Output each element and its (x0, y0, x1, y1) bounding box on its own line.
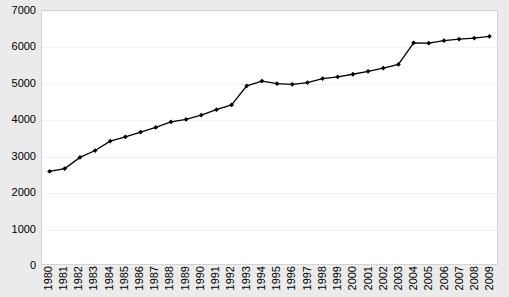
x-tick-label: 2009 (484, 266, 495, 290)
data-point-marker (426, 41, 431, 46)
x-tick-label: 1992 (225, 266, 236, 290)
data-point-marker (305, 80, 310, 85)
y-tick-label: 3000 (0, 151, 36, 162)
x-tick-label: 1991 (210, 266, 221, 290)
x-tick-label: 1999 (332, 266, 343, 290)
x-tick-label: 1982 (73, 266, 84, 290)
y-tick-label: 4000 (0, 114, 36, 125)
y-axis: 01000200030004000500060007000 (0, 0, 36, 297)
y-tick-label: 7000 (0, 5, 36, 16)
x-tick-label: 1988 (164, 266, 175, 290)
x-tick-label: 1990 (195, 266, 206, 290)
x-tick-label: 2007 (454, 266, 465, 290)
data-point-marker (214, 107, 219, 112)
x-tick-label: 1998 (317, 266, 328, 290)
x-tick-label: 1989 (180, 266, 191, 290)
data-point-marker (381, 66, 386, 71)
series-line (50, 36, 490, 171)
x-tick-label: 1986 (134, 266, 145, 290)
x-tick-label: 1995 (271, 266, 282, 290)
data-point-marker (472, 36, 477, 41)
x-axis: 1980198119821983198419851986198719881989… (41, 266, 498, 297)
data-point-marker (275, 81, 280, 86)
data-point-marker (335, 74, 340, 79)
x-tick-label: 2000 (347, 266, 358, 290)
x-tick-label: 2001 (363, 266, 374, 290)
x-tick-label: 2006 (439, 266, 450, 290)
y-tick-label: 6000 (0, 41, 36, 52)
x-tick-label: 1981 (58, 266, 69, 290)
data-series-line (42, 11, 497, 264)
x-tick-label: 2004 (408, 266, 419, 290)
x-tick-label: 1993 (241, 266, 252, 290)
data-point-marker (457, 37, 462, 42)
data-point-marker (290, 82, 295, 87)
x-tick-label: 1984 (104, 266, 115, 290)
y-tick-label: 5000 (0, 78, 36, 89)
data-point-marker (366, 69, 371, 74)
x-tick-label: 2008 (469, 266, 480, 290)
x-tick-label: 1983 (88, 266, 99, 290)
y-tick-label: 0 (0, 260, 36, 271)
x-tick-label: 1980 (43, 266, 54, 290)
y-tick-label: 2000 (0, 187, 36, 198)
y-tick-label: 1000 (0, 224, 36, 235)
line-chart: 01000200030004000500060007000 1980198119… (0, 0, 509, 297)
x-tick-label: 2002 (378, 266, 389, 290)
data-point-marker (184, 117, 189, 122)
data-point-marker (138, 130, 143, 135)
data-point-marker (123, 134, 128, 139)
data-point-marker (153, 125, 158, 130)
x-tick-label: 1997 (302, 266, 313, 290)
data-point-marker (169, 120, 174, 125)
data-point-marker (320, 76, 325, 81)
x-tick-label: 1987 (149, 266, 160, 290)
x-tick-label: 2003 (393, 266, 404, 290)
x-tick-label: 1994 (256, 266, 267, 290)
plot-area (41, 10, 498, 265)
data-point-marker (260, 79, 265, 84)
data-point-marker (442, 38, 447, 43)
data-point-marker (199, 113, 204, 118)
data-point-marker (487, 34, 492, 39)
data-point-marker (351, 72, 356, 77)
data-point-marker (47, 169, 52, 174)
x-tick-label: 1985 (119, 266, 130, 290)
x-tick-label: 1996 (286, 266, 297, 290)
x-tick-label: 2005 (423, 266, 434, 290)
